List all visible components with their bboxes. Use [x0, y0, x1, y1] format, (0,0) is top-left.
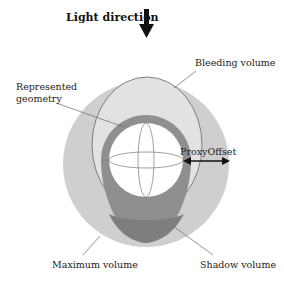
- represented-geometry-label-line1: Represented: [16, 81, 77, 93]
- represented-geometry-label-line2: geometry: [16, 93, 62, 105]
- light-direction-arrow-icon: [139, 9, 154, 38]
- shadow-volume-label: Shadow volume: [200, 259, 276, 271]
- volume-diagram: [0, 0, 284, 286]
- proxy-offset-label: ProxyOffset: [180, 146, 236, 158]
- represented-geometry: [109, 123, 183, 197]
- maximum-volume-label: Maximum volume: [52, 259, 138, 271]
- bleeding-volume-label: Bleeding volume: [195, 57, 275, 69]
